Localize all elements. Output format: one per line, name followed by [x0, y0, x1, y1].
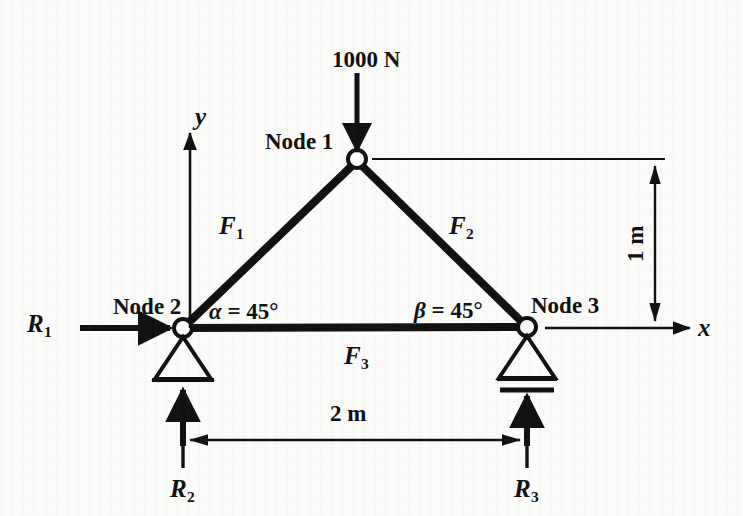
node-1-circle	[348, 150, 366, 168]
angle-beta-symbol: β	[414, 298, 426, 323]
dimension-height-label: 1 m	[624, 226, 647, 262]
axis-x-label: x	[698, 315, 711, 340]
member-f2-letter: F	[449, 212, 466, 239]
reaction-r2-subscript: 2	[187, 488, 195, 505]
angle-alpha-symbol: α	[209, 299, 222, 324]
member-f3-letter: F	[344, 342, 361, 369]
reaction-r1-subscript: 1	[44, 323, 52, 340]
member-f3-label: F3	[344, 343, 368, 368]
angle-beta-degree: °	[473, 298, 482, 323]
reaction-r1-letter: R	[27, 310, 44, 337]
node-3-label: Node 3	[531, 294, 599, 317]
reaction-r2-letter: R	[170, 475, 187, 502]
member-f1-subscript: 1	[236, 225, 244, 242]
member-f3-subscript: 3	[361, 355, 369, 372]
member-f1-letter: F	[219, 212, 236, 239]
truss-diagram-figure: 1000 N y x Node 1 Node 2 Node 3 F1 F2 F3…	[0, 0, 743, 516]
angle-beta-label: β = 45°	[414, 299, 483, 322]
angle-alpha-value: = 45	[227, 299, 269, 324]
reaction-r3-subscript: 3	[531, 488, 539, 505]
support-pin-node2	[152, 337, 214, 380]
angle-beta-value: = 45	[432, 298, 474, 323]
reaction-r3-label: R3	[514, 476, 538, 501]
dimension-span-label: 2 m	[330, 402, 366, 425]
reaction-r1-label: R1	[27, 311, 51, 336]
support-roller-node3	[497, 336, 557, 390]
member-f3-line	[183, 327, 527, 328]
node-1-label: Node 1	[265, 130, 333, 153]
load-label-1000n: 1000 N	[332, 48, 400, 71]
dimension-height-1m	[372, 159, 665, 321]
reaction-r3-letter: R	[514, 475, 531, 502]
node-2-label: Node 2	[113, 295, 181, 318]
axis-y-label: y	[195, 104, 206, 129]
reaction-r2-label: R2	[170, 476, 194, 501]
angle-alpha-degree: °	[269, 299, 278, 324]
angle-alpha-label: α = 45°	[209, 300, 279, 323]
member-f2-label: F2	[449, 213, 473, 238]
member-f2-subscript: 2	[466, 225, 474, 242]
member-f1-label: F1	[219, 213, 243, 238]
